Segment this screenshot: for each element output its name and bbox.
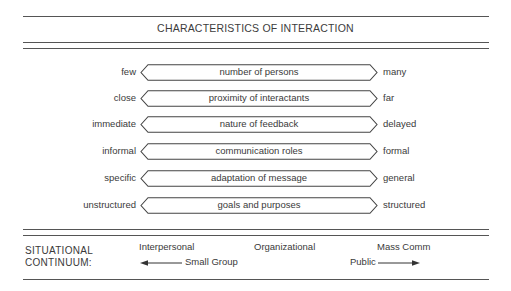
row-center-label: communication roles [140,145,378,156]
characteristic-row-adaptation: specific adaptation of message general [0,170,511,188]
row-left-label: immediate [92,118,136,129]
continuum-rule-upper [23,229,489,230]
bidirectional-bar: communication roles [140,143,378,160]
continuum-public: Public [350,256,376,267]
bidirectional-bar: goals and purposes [140,197,378,214]
left-arrow-icon [140,259,182,267]
characteristic-row-feedback: immediate nature of feedback delayed [0,116,511,134]
row-left-label: informal [102,145,136,156]
row-left-label: unstructured [83,199,136,210]
diagram-title: CHARACTERISTICS OF INTERACTION [0,22,511,34]
title-rule-lower [23,48,489,49]
row-center-label: proximity of interactants [140,92,378,103]
continuum-interpersonal: Interpersonal [139,241,194,252]
title-rule-upper [23,42,489,43]
continuum-rule-lower [23,235,489,236]
right-arrow-icon [378,259,420,267]
continuum-mass-comm: Mass Comm [377,241,430,252]
characteristic-row-goals: unstructured goals and purposes structur… [0,197,511,215]
bidirectional-bar: adaptation of message [140,170,378,187]
bidirectional-bar: number of persons [140,64,378,81]
top-rule [23,16,489,17]
continuum-label-line1: SITUATIONAL [25,245,93,257]
row-left-label: few [121,66,136,77]
characteristic-row-communication-roles: informal communication roles formal [0,143,511,161]
row-center-label: goals and purposes [140,199,378,210]
continuum-label-line2: CONTINUUM: [25,257,93,269]
row-right-label: formal [383,145,409,156]
row-center-label: number of persons [140,66,378,77]
continuum-organizational: Organizational [254,241,315,252]
row-right-label: far [383,92,394,103]
row-center-label: nature of feedback [140,118,378,129]
row-left-label: specific [104,172,136,183]
row-center-label: adaptation of message [140,172,378,183]
continuum-small-group: Small Group [185,256,238,267]
characteristic-row-number-of-persons: few number of persons many [0,64,511,82]
row-right-label: many [383,66,406,77]
bottom-rule [23,279,489,280]
situational-continuum-label: SITUATIONAL CONTINUUM: [25,245,93,269]
bidirectional-bar: proximity of interactants [140,90,378,107]
row-right-label: delayed [383,118,416,129]
row-left-label: close [114,92,136,103]
characteristic-row-proximity: close proximity of interactants far [0,90,511,108]
bidirectional-bar: nature of feedback [140,116,378,133]
row-right-label: general [383,172,415,183]
row-right-label: structured [383,199,425,210]
